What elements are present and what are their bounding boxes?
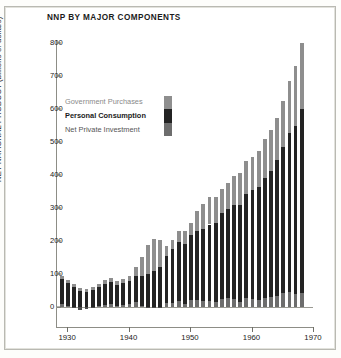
bar-segment-investment <box>251 299 255 307</box>
bar-stack <box>220 0 224 358</box>
bar-segment-investment <box>66 306 70 307</box>
bar-segment-consumption <box>109 282 113 304</box>
bar-stack <box>177 0 181 358</box>
bar-segment-consumption <box>177 242 181 301</box>
bar-segment-government <box>214 197 218 222</box>
chart-figure: NNP BY MAJOR COMPONENTS NET NATIONAL PRO… <box>0 0 341 358</box>
bar-segment-investment <box>121 305 125 307</box>
bar-segment-consumption <box>91 290 95 307</box>
bar-segment-government <box>78 288 82 291</box>
bar-segment-government <box>128 276 132 281</box>
bar-stack <box>201 0 205 358</box>
bar-segment-government <box>275 118 279 161</box>
bar-stack <box>226 0 230 358</box>
bar-segment-government <box>257 151 261 187</box>
bar-series-group <box>1 0 341 358</box>
bar-segment-government <box>189 223 193 236</box>
bar-stack <box>91 0 95 358</box>
bar-segment-consumption <box>226 209 230 298</box>
bar-segment-investment <box>177 301 181 307</box>
bar-stack <box>232 0 236 358</box>
bar-segment-government <box>244 161 248 193</box>
bar-segment-consumption <box>78 291 82 307</box>
bar-segment-investment <box>226 298 230 307</box>
bar-segment-government <box>232 176 236 205</box>
bar-segment-investment <box>208 301 212 307</box>
bar-segment-consumption <box>208 225 212 302</box>
bar-stack <box>257 0 261 358</box>
bar-segment-consumption <box>103 284 107 304</box>
bar-segment-government <box>121 279 125 283</box>
bar-segment-government <box>109 278 113 282</box>
bar-segment-investment <box>128 304 132 307</box>
bar-segment-consumption <box>72 287 76 307</box>
bar-segment-consumption <box>165 256 169 304</box>
bar-stack <box>103 0 107 358</box>
bar-segment-consumption <box>244 194 248 299</box>
bar-stack <box>85 0 89 358</box>
bar-segment-government <box>60 276 64 279</box>
bar-segment-consumption <box>251 190 255 300</box>
bar-segment-consumption <box>97 287 101 305</box>
bar-stack <box>171 0 175 358</box>
bar-segment-investment <box>103 305 107 307</box>
bar-segment-consumption <box>201 229 205 301</box>
bar-stack <box>158 0 162 358</box>
bar-segment-investment <box>115 306 119 307</box>
bar-segment-government <box>201 204 205 229</box>
bar-segment-investment <box>214 302 218 307</box>
bar-segment-government <box>294 66 298 126</box>
bar-stack <box>300 0 304 358</box>
bar-segment-investment <box>281 293 285 307</box>
bar-stack <box>238 0 242 358</box>
bar-segment-investment <box>60 304 64 307</box>
bar-segment-consumption <box>220 213 224 298</box>
bar-segment-investment <box>238 302 242 307</box>
bar-segment-government <box>66 280 70 283</box>
plot-area <box>57 43 312 307</box>
bar-stack <box>66 0 70 358</box>
bar-segment-consumption <box>128 281 132 304</box>
bar-segment-investment <box>263 298 267 307</box>
legend-item-investment: Net Private Investment <box>65 123 165 137</box>
legend-label-government: Government Purchases <box>65 98 143 105</box>
bar-stack <box>128 0 132 358</box>
bar-segment-government <box>226 183 230 209</box>
bar-segment-consumption <box>152 271 156 307</box>
bar-segment-government <box>91 287 95 290</box>
bar-segment-government <box>220 189 224 214</box>
bar-segment-investment <box>257 300 261 307</box>
bar-segment-investment <box>134 302 138 307</box>
bar-stack <box>288 0 292 358</box>
bar-segment-government <box>97 284 101 287</box>
bar-segment-government <box>158 240 162 267</box>
bar-stack <box>244 0 248 358</box>
bar-segment-government <box>103 280 107 284</box>
bar-segment-investment <box>171 303 175 307</box>
bar-segment-government <box>134 267 138 275</box>
bar-stack <box>275 0 279 358</box>
bar-segment-government <box>288 81 292 133</box>
bar-segment-investment <box>294 294 298 307</box>
bar-segment-consumption <box>146 274 150 307</box>
bar-segment-investment <box>109 304 113 307</box>
bar-stack <box>189 0 193 358</box>
legend-swatch-investment <box>164 123 172 136</box>
bar-segment-investment-negative <box>85 307 89 309</box>
bar-segment-consumption <box>288 133 292 292</box>
bar-segment-government <box>195 211 199 231</box>
bar-stack <box>97 0 101 358</box>
bar-segment-government <box>238 173 242 204</box>
bar-segment-government <box>269 130 273 171</box>
bar-segment-government <box>171 240 175 249</box>
bar-stack <box>208 0 212 358</box>
bar-segment-government <box>281 101 285 147</box>
bar-segment-investment-negative <box>78 307 82 310</box>
bar-segment-investment <box>201 301 205 307</box>
legend-swatch-government <box>164 96 172 109</box>
bar-segment-consumption <box>66 283 70 306</box>
bar-segment-consumption <box>171 249 175 303</box>
legend-label-consumption: Personal Consumption <box>65 112 146 119</box>
bar-segment-investment <box>269 297 273 307</box>
bar-stack <box>152 0 156 358</box>
